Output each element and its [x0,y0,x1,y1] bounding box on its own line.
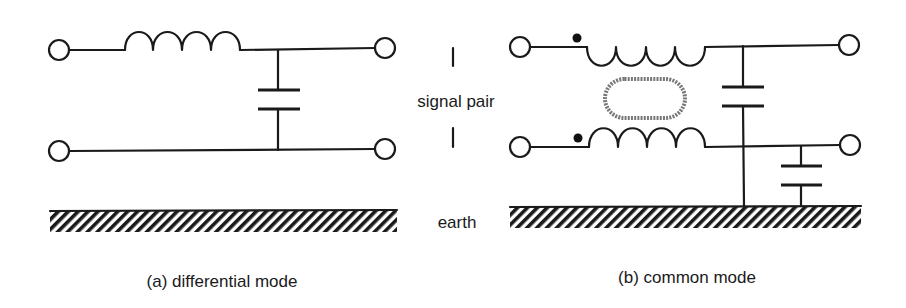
terminal-icon [375,139,395,159]
terminal-icon [510,37,530,57]
earth-plane-b [510,206,861,228]
terminal-icon [49,141,69,161]
capacitor-icon [722,46,764,206]
top-signal-line-b [530,34,839,66]
caption-differential-mode: (a) differential mode [147,272,298,291]
circuit-diagram: signal pair earth [0,0,906,308]
earth-label: earth [438,213,477,232]
polarity-dot-icon [574,134,583,143]
capacitor-icon [258,50,300,150]
terminal-icon [510,137,530,157]
capacitor-icon [781,146,822,206]
terminal-icon [840,135,860,155]
common-mode-circuit [510,34,861,229]
caption-common-mode: (b) common mode [618,268,756,287]
terminal-icon [49,40,69,60]
inductor-icon [589,128,705,147]
inductor-icon [125,32,240,50]
terminal-icon [375,38,395,58]
magnetic-core-icon [605,79,685,118]
polarity-dot-icon [573,34,582,43]
differential-mode-circuit [49,32,397,232]
top-signal-line-a [69,32,375,50]
inductor-icon [587,47,705,66]
bottom-signal-line-a [69,149,375,151]
signal-pair-label: signal pair [417,92,495,111]
middle-labels: signal pair earth [417,48,495,232]
terminal-icon [839,35,859,55]
bottom-signal-line-b [530,128,840,147]
earth-plane-a [50,210,397,232]
